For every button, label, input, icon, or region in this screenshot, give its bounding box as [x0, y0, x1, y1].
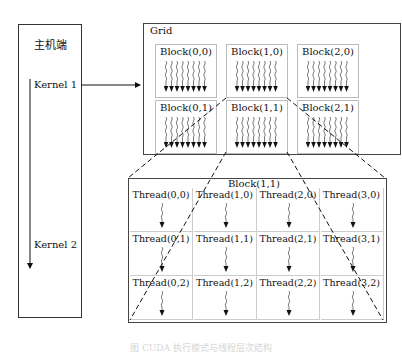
thread-arrows-icon	[164, 60, 208, 94]
thread-cell: Thread(3,1)	[321, 232, 384, 276]
thread-cell: Thread(3,2)	[321, 276, 384, 320]
thread-arrow-icon	[285, 290, 293, 318]
thread-arrow-icon	[285, 202, 293, 230]
thread-label: Thread(3,2)	[321, 277, 383, 288]
thread-arrow-icon	[285, 246, 293, 274]
figure-caption: 图 CUDA 执行模式与线程层次结构	[0, 341, 402, 354]
thread-label: Thread(1,0)	[194, 189, 256, 200]
block-label: Block(2,1)	[298, 102, 358, 113]
kernel-1-label: Kernel 1	[34, 79, 77, 90]
block: Block(0,1)	[155, 100, 217, 154]
block-label: Block(0,0)	[156, 46, 216, 57]
thread-label: Thread(3,0)	[321, 189, 383, 200]
thread-label: Thread(2,2)	[257, 277, 319, 288]
host-box	[18, 24, 82, 318]
thread-arrow-icon	[222, 202, 230, 230]
thread-label: Thread(3,1)	[321, 233, 383, 244]
thread-cell: Thread(3,0)	[321, 188, 384, 232]
grid-title: Grid	[150, 25, 172, 36]
thread-arrow-icon	[349, 246, 357, 274]
thread-label: Thread(1,1)	[194, 233, 256, 244]
block: Block(2,0)	[297, 44, 359, 98]
thread-arrow-icon	[158, 246, 166, 274]
thread-arrow-icon	[158, 290, 166, 318]
thread-arrows-icon	[235, 60, 279, 94]
thread-cell: Thread(0,1)	[130, 232, 193, 276]
block: Block(1,0)	[226, 44, 288, 98]
block: Block(2,1)	[297, 100, 359, 154]
thread-arrows-icon	[306, 116, 350, 150]
block-label: Block(0,1)	[156, 102, 216, 113]
block: Block(0,0)	[155, 44, 217, 98]
thread-arrow-icon	[158, 202, 166, 230]
thread-cell: Thread(1,1)	[194, 232, 257, 276]
thread-label: Thread(0,1)	[130, 233, 192, 244]
thread-label: Thread(2,1)	[257, 233, 319, 244]
thread-cell: Thread(2,1)	[257, 232, 320, 276]
thread-cell: Thread(1,0)	[194, 188, 257, 232]
thread-arrow-icon	[349, 290, 357, 318]
thread-cell: Thread(0,2)	[130, 276, 193, 320]
thread-cell: Thread(0,0)	[130, 188, 193, 232]
thread-cell: Thread(1,2)	[194, 276, 257, 320]
block-label: Block(1,1)	[227, 102, 287, 113]
thread-arrows-icon	[306, 60, 350, 94]
thread-label: Thread(2,0)	[257, 189, 319, 200]
thread-cell: Thread(2,2)	[257, 276, 320, 320]
thread-arrow-icon	[222, 246, 230, 274]
thread-arrows-icon	[164, 116, 208, 150]
thread-arrows-icon	[235, 116, 279, 150]
thread-label: Thread(0,2)	[130, 277, 192, 288]
thread-label: Thread(0,0)	[130, 189, 192, 200]
thread-label: Thread(1,2)	[194, 277, 256, 288]
host-title: 主机端	[34, 36, 67, 52]
block-label: Block(1,0)	[227, 46, 287, 57]
thread-cell: Thread(2,0)	[257, 188, 320, 232]
block: Block(1,1)	[226, 100, 288, 154]
thread-arrow-icon	[222, 290, 230, 318]
thread-arrow-icon	[349, 202, 357, 230]
kernel-2-label: Kernel 2	[34, 239, 77, 250]
block-label: Block(2,0)	[298, 46, 358, 57]
